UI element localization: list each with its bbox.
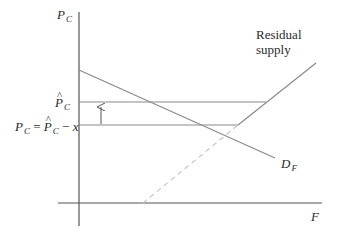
p-hat-sub: C <box>64 102 70 112</box>
residual-supply-label-line2: supply <box>256 42 302 57</box>
y-axis-label: PC <box>57 8 72 21</box>
pc-equation-label: PC = ^PC − x <box>15 120 78 133</box>
p-hat-label: ^PC <box>55 96 70 109</box>
x-axis-label: F <box>311 210 319 223</box>
residual-supply-solid-segment <box>238 63 316 125</box>
residual-supply-label-line1: Residual <box>256 27 302 42</box>
pc-eq-left-main: P <box>15 119 23 134</box>
demand-label-main: D <box>281 156 290 171</box>
residual-supply-label: Residual supply <box>256 27 302 57</box>
hat-accent: ^ <box>57 90 62 101</box>
pc-eq-x: x <box>73 119 79 134</box>
pc-eq-left-sub: C <box>24 126 30 136</box>
pc-eq-right-sub: C <box>53 126 59 136</box>
x-axis-label-text: F <box>311 209 319 224</box>
residual-supply-dashed-segment <box>143 125 238 203</box>
y-axis-label-main: P <box>57 7 65 22</box>
pc-eq-minus: − <box>59 119 73 134</box>
demand-curve-df <box>79 70 275 158</box>
demand-label-sub: F <box>291 163 297 173</box>
hat-accent-2: ^ <box>46 114 51 125</box>
pc-eq-equals: = <box>30 119 44 134</box>
y-axis-label-sub: C <box>66 14 72 24</box>
demand-label: DF <box>281 157 297 170</box>
